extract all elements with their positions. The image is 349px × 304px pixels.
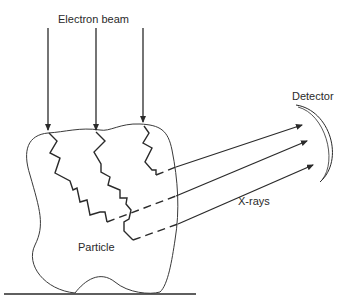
diagram-canvas <box>0 0 349 304</box>
particle-outline <box>27 124 178 293</box>
xrays-label: X-rays <box>238 195 270 207</box>
detector-label: Detector <box>292 90 334 102</box>
electron-scatter-paths <box>49 126 156 240</box>
particle-label: Particle <box>78 241 115 253</box>
electron-beam-label: Electron beam <box>58 13 129 25</box>
electron-beam-arrows <box>48 28 143 130</box>
xray-internal-dashes <box>107 167 178 240</box>
xray-arrows <box>176 125 313 224</box>
